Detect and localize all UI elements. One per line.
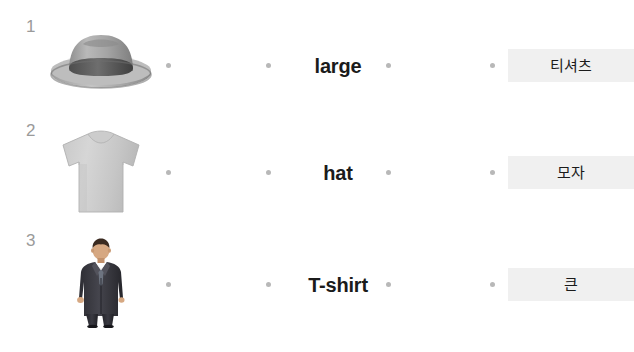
table-row: 3 [0,230,634,352]
english-word[interactable]: large [288,56,388,76]
korean-answer-box[interactable]: 모자 [508,156,634,189]
connector-dot-right-1[interactable] [266,282,271,287]
english-word[interactable]: hat [288,163,388,183]
row-image-tshirt[interactable] [46,129,156,217]
man-illustration [64,238,138,328]
connector-dot-left-1[interactable] [166,282,171,287]
korean-word: 큰 [564,277,578,292]
connector-dot-left-2[interactable] [386,170,391,175]
connector-dot-right-2[interactable] [490,63,495,68]
korean-answer-box[interactable]: 큰 [508,268,634,301]
connector-dot-left-2[interactable] [386,282,391,287]
connector-dot-left-2[interactable] [386,63,391,68]
table-row: 1 [0,0,634,115]
connector-dot-right-1[interactable] [266,63,271,68]
row-image-man[interactable] [46,238,156,328]
connector-dot-left-1[interactable] [166,63,171,68]
connector-dot-right-2[interactable] [490,282,495,287]
korean-word: 티셔츠 [550,58,593,73]
connector-dot-left-1[interactable] [166,170,171,175]
tshirt-illustration [55,130,147,216]
korean-word: 모자 [557,165,586,180]
row-image-hat[interactable] [46,20,156,98]
matching-worksheet: 1 [0,0,634,352]
row-number: 1 [26,18,35,35]
row-number: 3 [26,232,35,249]
english-word[interactable]: T-shirt [288,275,388,295]
korean-answer-box[interactable]: 티셔츠 [508,49,634,82]
table-row: 2 [0,115,634,230]
connector-dot-right-1[interactable] [266,170,271,175]
hat-illustration [49,28,153,90]
connector-dot-right-2[interactable] [490,170,495,175]
row-number: 2 [26,122,35,139]
